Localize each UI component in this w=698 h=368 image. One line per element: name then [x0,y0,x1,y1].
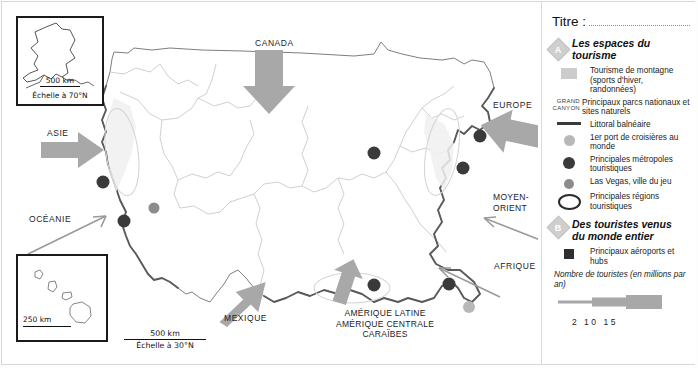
main-scale: 500 km Échelle à 30°N [124,329,206,351]
cruise-dot-key [550,133,588,146]
legend-item-coast-label: Littoral balnéaire [588,120,651,130]
label-canada: CANADA [255,38,294,48]
inset-alaska: 500 km Échelle à 70°N [16,16,104,106]
hawaii-scale-distance: 250 km [23,315,51,324]
dot-metropole-neworleans [443,278,456,291]
dot-metropole-seattle [97,176,110,189]
dot-metropole-newyork [474,130,487,143]
hawaii-outline [18,256,106,340]
airport-square-icon [564,249,574,259]
legend-section-b-title: Des touristes venus du monde entier [572,218,684,242]
legend-item-metropoles: Principales métropoles touristiques [550,155,690,174]
legend-item-parks: GRANDCANYON Principaux parcs nationaux e… [550,98,690,117]
map-pane: 500 km Échelle à 70°N 250 km 500 km Éche… [2,2,538,364]
label-europe: EUROPE [493,100,532,110]
badge-a-letter: A [555,44,562,54]
lasvegas-dot-key [550,177,588,189]
legend-item-airports-label: Principaux aéroports et hubs [588,247,690,266]
legend-item-mountain: Tourisme de montagne (sports d'hiver, ra… [550,66,690,95]
alaska-scale-distance: 500 km [18,76,102,85]
legend-item-lasvegas: Las Vegas, ville du jeu [550,177,690,189]
alaska-scale-bar [40,86,80,87]
legend-item-lasvegas-label: Las Vegas, ville du jeu [588,177,671,187]
flow-width-icon [558,293,670,311]
legend-section-a-header: A Les espaces du tourisme [550,37,690,61]
park-code-icon: GRANDCANYON [550,98,580,113]
alaska-scale-note: Échelle à 70°N [18,91,102,100]
arrow-moyen-orient [484,218,538,240]
dot-metropole-orlando [368,279,381,292]
legend-title-label: Titre : [552,14,586,29]
coast-line-icon [557,122,581,125]
legend-item-regions-label: Principales régions touristiques [588,192,690,211]
label-moyen-orient: MOYEN-ORIENT [493,192,529,213]
legend-item-metropoles-label: Principales métropoles touristiques [588,155,690,174]
main-scale-bar [124,339,206,341]
main-scale-distance: 500 km [124,329,206,338]
region-ellipse-key [550,192,588,210]
inset-hawaii: 250 km [16,254,108,342]
coast-line-key [550,120,588,125]
dot-metropole-sanfrancisco [118,215,131,228]
legend-title-row: Titre : [552,14,690,29]
legend-item-parks-label: Principaux parcs nationaux et sites natu… [580,98,690,117]
legend-section-a-title: Les espaces du tourisme [572,37,690,61]
airport-square-key [550,247,588,259]
dot-metropole-chicago [368,147,381,160]
main-scale-note: Échelle à 30°N [124,341,206,350]
region-ellipse-icon [558,194,581,210]
legend-flow-symbol [558,293,690,315]
dot-lasvegas [149,203,160,214]
dot-metropole-washington [457,162,470,175]
legend-item-coast: Littoral balnéaire [550,120,690,130]
metropolis-dot-key [550,155,588,169]
legend-title-dotted-blank[interactable] [589,22,690,26]
metropolis-dot-icon [563,157,575,169]
legend-item-regions: Principales régions touristiques [550,192,690,211]
badge-b-diamond-icon: B [546,216,570,240]
badge-b-letter: B [555,223,562,233]
label-afrique: AFRIQUE [494,261,536,271]
legend-pane: Titre : A Les espaces du tourisme Touris… [541,2,696,364]
mountain-swatch-icon [561,68,577,79]
legend-flow-title: Nombre de touristes (en millions par an) [554,270,690,290]
mountain-swatch-key [550,66,588,79]
legend-item-mountain-label: Tourisme de montagne (sports d'hiver, ra… [588,66,690,95]
legend-item-airports: Principaux aéroports et hubs [550,247,690,266]
label-oceanie: OCÉANIE [29,214,71,224]
label-amerique-latine: AMÉRIQUE LATINEAMÉRIQUE CENTRALECARAÏBES [336,308,434,340]
hawaii-scale-bar [23,326,71,327]
map-figure-root: 500 km Échelle à 70°N 250 km 500 km Éche… [0,0,698,368]
cruise-dot-icon [564,135,575,146]
legend-item-cruise-label: 1er port de croisières au monde [588,133,690,152]
badge-a-diamond-icon: A [546,37,570,61]
label-mexique: MEXIQUE [224,313,267,323]
dot-cruise-miami [463,301,475,313]
label-asie: ASIE [47,128,69,138]
lasvegas-dot-icon [564,179,574,189]
legend-section-b-header: B Des touristes venus du monde entier [550,218,690,242]
legend-flow-values: 2 10 15 [572,317,690,327]
legend-item-cruise: 1er port de croisières au monde [550,133,690,152]
